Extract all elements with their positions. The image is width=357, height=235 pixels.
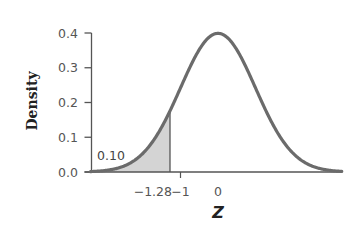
y-tick-label: 0.0 <box>58 165 78 180</box>
x-axis-title: Z <box>211 203 224 222</box>
y-tick-label: 0.1 <box>58 130 78 145</box>
density-curve <box>91 33 342 171</box>
y-tick-label: 0.4 <box>58 26 78 41</box>
normal-density-chart: 0.00.10.20.30.4 −1.28−10 0.10 Density Z <box>0 0 357 235</box>
y-tick-label: 0.2 <box>58 95 78 110</box>
x-tick-label: 0 <box>214 184 222 199</box>
y-axis-title: Density <box>24 71 40 131</box>
y-tick-label: 0.3 <box>58 60 78 75</box>
x-tick-label: −1 <box>171 184 189 199</box>
shaded-area-label: 0.10 <box>97 148 125 163</box>
x-tick-label: −1.28 <box>134 184 172 199</box>
x-axis-ticks: −1.28−10 <box>134 172 222 199</box>
y-axis: 0.00.10.20.30.4 <box>58 26 91 180</box>
